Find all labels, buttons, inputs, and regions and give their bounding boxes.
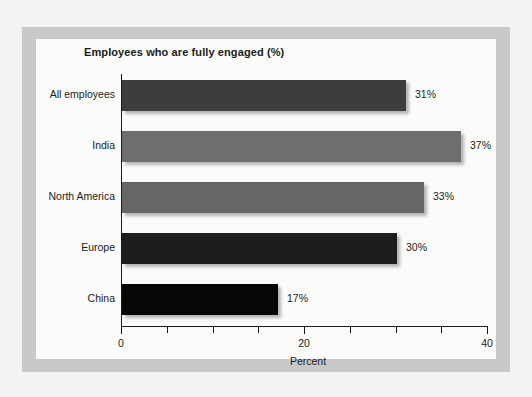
x-axis-tick [167,327,168,333]
x-axis-tick [396,327,397,333]
bar-row: India 37% [0,131,532,162]
x-axis-tick [441,327,442,333]
bar-value-label: 30% [406,241,427,253]
x-axis-tick [487,327,488,334]
x-axis-title-text: Percent [290,355,326,367]
category-label: India [92,139,115,151]
bar-all-employees [122,80,406,111]
category-label: North America [48,190,115,202]
category-label: China [88,292,115,304]
x-axis-tick-label: 40 [481,337,493,349]
bar-north-america [122,182,424,213]
x-axis-tick [213,327,214,333]
x-axis-tick [121,327,122,334]
x-axis-tick [350,327,351,333]
bar-value-label: 31% [415,88,436,100]
x-axis-tick-label: 20 [298,337,310,349]
page-background: Employees who are fully engaged (%) All … [0,0,532,397]
x-axis-title: Percent [0,355,532,367]
bar-europe [122,233,397,264]
bar-value-label: 33% [433,190,454,202]
bar-india [122,131,461,162]
x-axis-tick-label: 0 [118,337,124,349]
bar-value-label: 37% [470,139,491,151]
bar-row: China 17% [0,284,532,315]
bar-china [122,284,278,315]
bar-row: All employees 31% [0,80,532,111]
plot-area: All employees 31% India 37% North Americ… [0,0,532,397]
x-axis-tick [258,327,259,333]
bar-row: North America 33% [0,182,532,213]
bar-value-label: 17% [287,292,308,304]
category-label: All employees [50,88,115,100]
bar-row: Europe 30% [0,233,532,264]
category-label: Europe [81,241,115,253]
x-axis-tick [304,327,305,334]
